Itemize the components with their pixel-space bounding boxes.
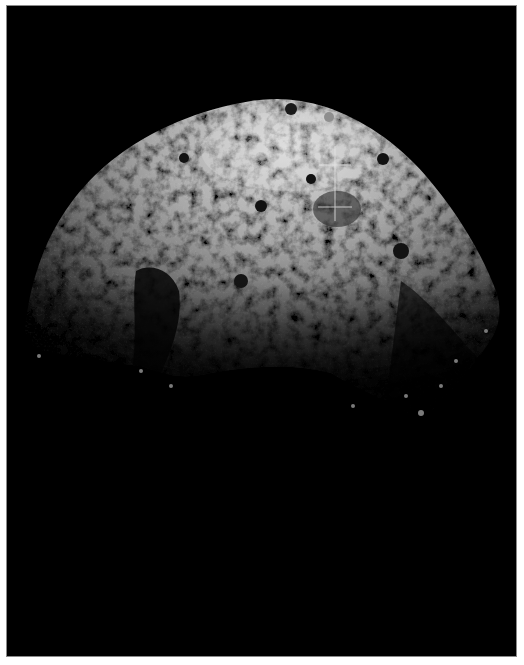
asteroid-image xyxy=(6,5,517,657)
limb-boulder xyxy=(324,112,334,122)
image-frame: Grayscale image of an asteroid with two … xyxy=(6,5,517,657)
